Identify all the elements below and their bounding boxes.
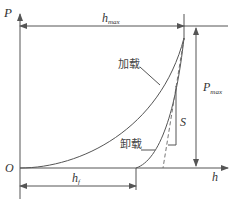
y-axis-label: P bbox=[3, 5, 12, 20]
unloading-curve bbox=[136, 38, 184, 168]
h-f-label: hf bbox=[72, 171, 81, 186]
origin-label: O bbox=[5, 161, 14, 175]
loading-curve-label: 加载 bbox=[118, 58, 140, 71]
h-max-label: hmax bbox=[102, 11, 121, 26]
stiffness-tangent-line bbox=[163, 38, 184, 168]
loading-leader-line bbox=[140, 67, 160, 85]
loading-curve bbox=[20, 38, 184, 168]
unloading-curve-label: 卸载 bbox=[120, 137, 142, 151]
load-displacement-diagram: P h O hmax Pmax hf S 加载 卸载 bbox=[0, 0, 234, 199]
stiffness-label: S bbox=[180, 115, 186, 129]
x-axis-label: h bbox=[212, 170, 218, 184]
p-max-label: Pmax bbox=[202, 80, 223, 96]
